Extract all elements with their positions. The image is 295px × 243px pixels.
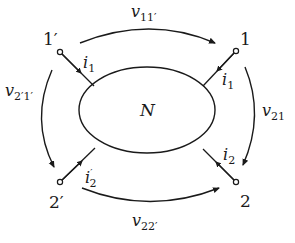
current-label-i2-right: i2: [223, 145, 235, 167]
voltage-arc-right: [243, 67, 255, 165]
terminal-label-2: 2: [240, 191, 251, 211]
terminal-1: [233, 48, 238, 53]
two-port-diagram: N 1′ 1 2′ 2 i1 i1 i′2 i2 v11′ v2′1′ v21 …: [0, 0, 295, 243]
network-label: N: [139, 100, 156, 120]
voltage-arc-left: [41, 70, 54, 167]
current-label-i1-left: i1: [83, 53, 95, 75]
terminal-label-2prime: 2′: [49, 192, 64, 212]
terminal-2prime: [57, 179, 62, 184]
terminal-label-1prime: 1′: [43, 29, 58, 49]
voltage-arc-bottom: [82, 188, 219, 202]
voltage-label-left: v2′1′: [5, 81, 34, 103]
lead-1prime-arrow: [60, 52, 80, 72]
voltage-label-top: v11′: [131, 2, 157, 24]
terminal-2: [233, 179, 238, 184]
lead-2prime-arrow: [60, 162, 81, 182]
current-label-i1-right: i1: [222, 70, 234, 92]
current-label-i2-left: i′2: [85, 167, 96, 190]
terminal-label-1: 1: [240, 29, 251, 49]
voltage-label-bottom: v22′: [132, 211, 158, 233]
voltage-arc-top: [80, 29, 215, 43]
lead-1-arrow: [218, 52, 235, 70]
terminal-1prime: [57, 49, 62, 54]
voltage-label-right: v21: [262, 101, 285, 123]
